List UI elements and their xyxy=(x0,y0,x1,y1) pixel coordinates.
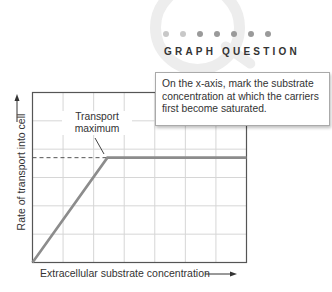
x-arrow-icon xyxy=(230,272,237,277)
graph-question-text: On the x-axis, mark the substrate concen… xyxy=(162,78,319,114)
y-arrow-icon xyxy=(15,94,20,101)
annotation-pointer xyxy=(95,138,104,154)
transport-maximum-label: Transport maximum xyxy=(62,111,132,135)
chart-svg xyxy=(0,0,332,292)
graph-question-box: On the x-axis, mark the substrate concen… xyxy=(155,72,330,126)
rate-curve xyxy=(33,158,247,263)
